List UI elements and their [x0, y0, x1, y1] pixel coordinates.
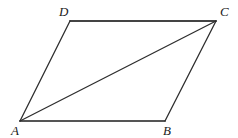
vertex-label-B: B	[163, 123, 171, 138]
parallelogram-diagram: D C A B	[0, 0, 238, 138]
vertex-label-A: A	[10, 123, 19, 138]
geometry-figure: D C A B	[0, 0, 238, 138]
vertex-label-D: D	[58, 4, 69, 19]
vertex-label-C: C	[220, 4, 229, 19]
